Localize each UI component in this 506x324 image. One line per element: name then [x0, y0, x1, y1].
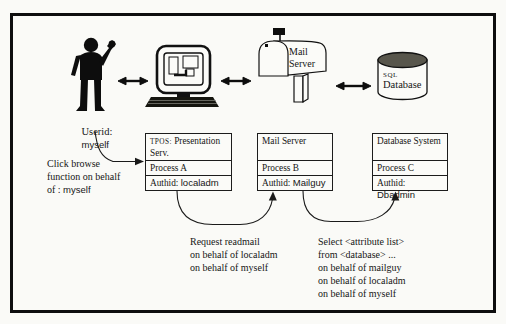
process-box-presentation-title: TPOS: Presentation Serv.: [146, 134, 231, 160]
double-arrow-mailserver-database: [336, 82, 371, 90]
annotation-request-readmail: Request readmail on behalf of localadm o…: [190, 235, 277, 274]
mailbox-label: Mail Server: [289, 46, 315, 69]
userid-label-value: myself: [82, 139, 109, 150]
mailbox-label-line2: Server: [289, 58, 315, 70]
database-label: SQL Database: [383, 71, 421, 91]
userid-label-prefix: Userid:: [82, 126, 113, 137]
tpos-prefix: TPOS:: [150, 137, 172, 146]
process-box-mailserver-title: Mail Server: [258, 134, 332, 160]
diagram-canvas: Userid: myself Mail Server SQL Database …: [0, 0, 506, 324]
computer-icon: [145, 46, 219, 107]
double-arrow-user-computer: [118, 77, 148, 85]
process-box-mailserver: Mail Server Process B Authid: Mailguy: [257, 133, 333, 191]
double-arrow-computer-mailserver: [221, 77, 251, 85]
annotation-select-query: Select <attribute list> from <database> …: [318, 235, 405, 300]
userid-label: Userid: myself: [71, 114, 112, 163]
annotation-click-browse: Click browse function on behalf of : mys…: [47, 157, 147, 196]
mailbox-label-line1: Mail: [289, 46, 315, 58]
process-box-database-process: Process C: [373, 160, 447, 175]
database-label-line1: SQL: [383, 71, 421, 79]
process-box-presentation-process: Process A: [146, 160, 231, 175]
process-box-presentation: TPOS: Presentation Serv. Process A Authi…: [145, 133, 232, 191]
process-box-database-authid: Authid: Dbadmin: [373, 175, 447, 190]
database-label-line2: Database: [383, 79, 421, 91]
process-box-database: Database System Process C Authid: Dbadmi…: [372, 133, 448, 191]
connector-processA-to-processB: [177, 191, 277, 225]
process-box-mailserver-authid: Authid: Mailguy: [258, 175, 332, 190]
person-icon: [71, 38, 116, 111]
process-box-presentation-authid: Authid: localadm: [146, 175, 231, 190]
process-box-mailserver-process: Process B: [258, 160, 332, 175]
process-box-database-title: Database System: [373, 134, 447, 160]
